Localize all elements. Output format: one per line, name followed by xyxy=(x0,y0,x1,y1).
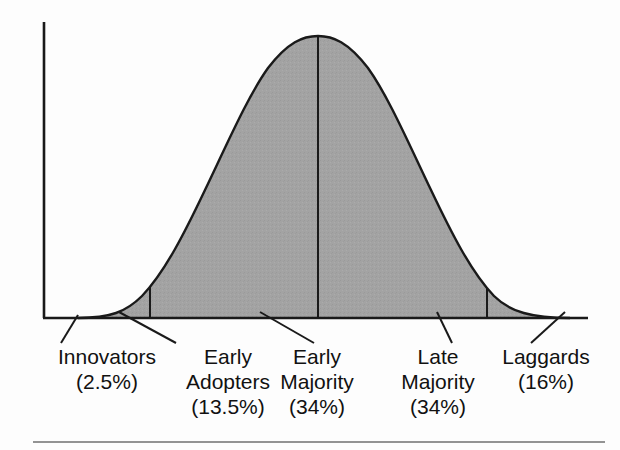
segment-label-laggards: Laggards (16%) xyxy=(483,344,609,394)
segment-label-innovators-percent: (2.5%) xyxy=(32,369,182,394)
segment-label-laggards-percent: (16%) xyxy=(483,369,609,394)
segment-label-laggards-name: Laggards xyxy=(483,344,609,369)
segment-label-early-majority-name: Early xyxy=(261,344,373,369)
segment-label-early-majority: Early Majority (34%) xyxy=(261,344,373,419)
segment-label-late-majority-percent: (34%) xyxy=(382,394,494,419)
segment-label-late-majority-name2: Majority xyxy=(382,369,494,394)
segment-label-late-majority-name: Late xyxy=(382,344,494,369)
segment-label-innovators-name: Innovators xyxy=(32,344,182,369)
segment-label-early-majority-name2: Majority xyxy=(261,369,373,394)
segment-label-innovators: Innovators (2.5%) xyxy=(32,344,182,394)
segment-label-late-majority: Late Majority (34%) xyxy=(382,344,494,419)
segment-label-early-majority-percent: (34%) xyxy=(261,394,373,419)
diffusion-of-innovation-figure: Innovators (2.5%) Early Adopters (13.5%)… xyxy=(0,0,620,450)
curve-fill-area xyxy=(78,36,570,318)
